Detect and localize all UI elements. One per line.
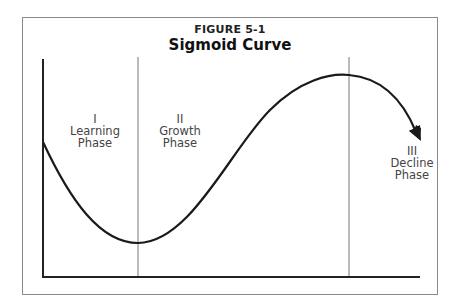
phase-label-learning: I Learning Phase xyxy=(65,113,125,149)
phase-label-decline: III Decline Phase xyxy=(382,145,442,181)
sigmoid-curve xyxy=(43,75,416,243)
phase-label-growth: II Growth Phase xyxy=(150,113,210,149)
